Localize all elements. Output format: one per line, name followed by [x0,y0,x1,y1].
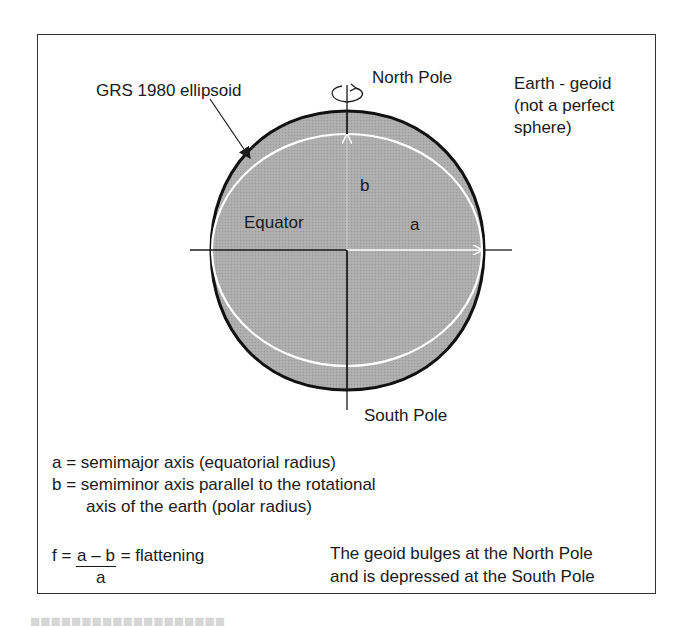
equator-label: Equator [244,212,304,233]
legend-b-definition-line1: b = semiminor axis parallel to the rotat… [52,474,376,495]
note-line2: and is depressed at the South Pole [330,566,595,587]
figure-caption-faint: ■■■■■■■■■■■■■■■■■■■ [30,612,225,627]
formula-denominator: a [96,567,105,588]
ellipsoid-label: GRS 1980 ellipsoid [96,80,242,101]
ellipsoid-pointer-arrow [210,99,250,158]
legend-b-definition-line2: axis of the earth (polar radius) [86,496,312,517]
formula-rhs: = flattening [121,546,205,565]
geoid-label-line2: (not a perfect [514,95,614,116]
south-pole-label: South Pole [364,405,447,426]
geoid-ellipsoid-figure: GRS 1980 ellipsoid North Pole Earth - ge… [0,0,688,627]
formula-lhs: f = [52,546,71,565]
north-pole-label: North Pole [372,67,452,88]
legend-a-definition: a = semimajor axis (equatorial radius) [52,452,336,473]
flattening-formula: f = a – b = flattening [52,545,204,567]
formula-numerator: a – b [76,546,116,567]
geoid-label-line1: Earth - geoid [514,73,611,94]
note-line1: The geoid bulges at the North Pole [330,543,593,564]
geoid-label-line3: sphere) [514,117,572,138]
semimajor-symbol: a [410,214,419,235]
semiminor-symbol: b [360,175,369,196]
